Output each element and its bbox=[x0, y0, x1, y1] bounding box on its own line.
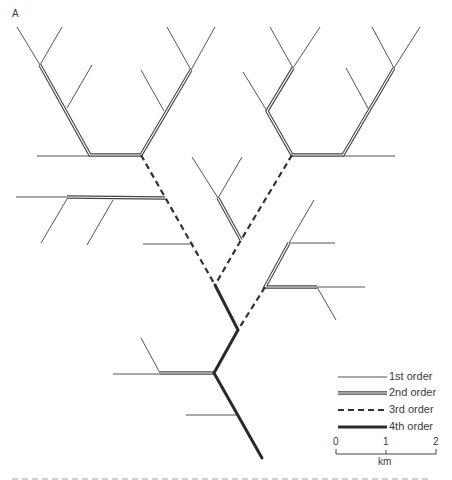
legend-label-1st: 1st order bbox=[389, 370, 432, 382]
scale-unit: km bbox=[378, 456, 391, 467]
legend-label-3rd: 3rd order bbox=[389, 403, 434, 415]
legend-label-4th: 4th order bbox=[389, 420, 433, 432]
scale-tick-2: 2 bbox=[433, 436, 439, 447]
scale-tick-0: 0 bbox=[333, 436, 339, 447]
cropped-caption bbox=[12, 476, 432, 480]
first-order-streams bbox=[16, 27, 420, 415]
third-order-streams bbox=[141, 155, 292, 330]
stream-network-diagram: .o1 { stroke: #555; stroke-width: 1; fil… bbox=[0, 0, 452, 480]
legend-label-2nd: 2nd order bbox=[389, 386, 436, 398]
panel-label: A bbox=[12, 8, 19, 19]
scale-tick-1: 1 bbox=[383, 436, 389, 447]
fourth-order-stream bbox=[214, 285, 262, 458]
second-order-streams bbox=[40, 65, 394, 373]
scale-bar bbox=[336, 449, 436, 454]
legend-symbols bbox=[338, 377, 387, 427]
